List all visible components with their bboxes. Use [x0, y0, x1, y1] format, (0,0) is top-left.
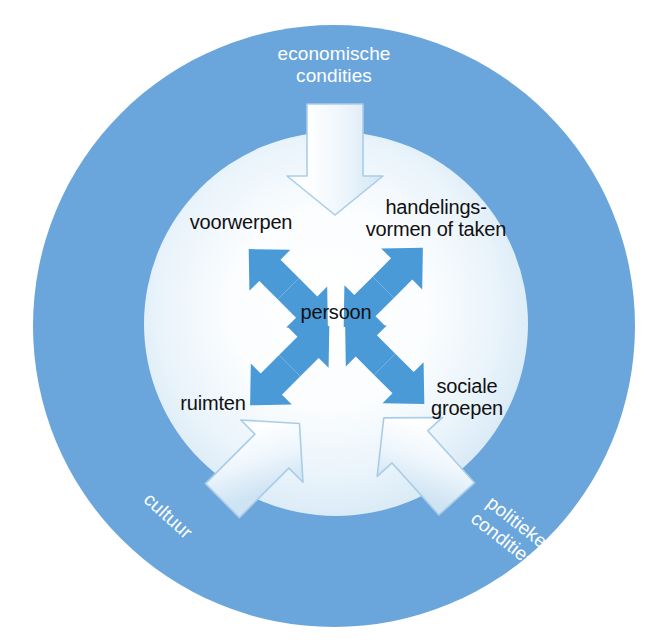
node-label-sociale-groepen: sociale groepen [402, 375, 532, 420]
diagram-canvas: economische condities cultuur politieke … [0, 0, 669, 643]
node-label-handelingsvormen: handelings- vormen of taken [338, 196, 534, 241]
node-label-persoon: persoon [266, 301, 406, 323]
ring-label-economische-condities: economische condities [222, 43, 446, 87]
node-label-ruimten: ruimten [153, 392, 273, 414]
node-label-voorwerpen: voorwerpen [161, 211, 321, 233]
